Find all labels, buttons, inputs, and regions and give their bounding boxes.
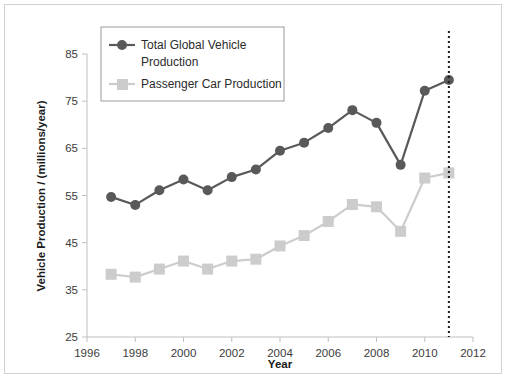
data-point-marker [202,264,213,275]
data-point-marker [203,185,213,195]
chart-frame: 25354555657585 1996199820002002200420062… [4,4,502,374]
data-point-marker [372,118,382,128]
data-point-marker [226,256,237,267]
data-point-marker [420,86,430,96]
data-point-marker [275,146,285,156]
chart-plot-area: 25354555657585 1996199820002002200420062… [5,5,501,373]
y-axis-title: Vehicle Production / (millions/year) [35,100,47,291]
data-point-marker [106,192,116,202]
data-point-marker [323,216,334,227]
legend-swatch-marker-dark [117,40,127,50]
x-tick-label: 2010 [412,347,438,359]
data-point-marker [178,256,189,267]
x-tick-label: 2000 [171,347,197,359]
data-point-marker [251,165,261,175]
y-tick-label: 55 [65,190,78,202]
legend-label-passenger-car-production: Passenger Car Production [141,77,282,91]
data-point-marker [227,172,237,182]
legend-swatch-marker-light [117,79,128,90]
data-point-marker [323,123,333,133]
data-point-marker [250,254,261,265]
y-tick-label: 45 [65,237,78,249]
legend-label-total-global-vehicle-production-line2: Production [141,55,198,69]
x-tick-label: 2006 [315,347,341,359]
y-tick-label: 35 [65,284,78,296]
x-tick-label: 2002 [219,347,245,359]
x-axis-ticks: 199619982000200220042006200820102012 [74,337,486,359]
x-tick-label: 2008 [364,347,390,359]
data-point-marker [299,230,310,241]
y-tick-label: 85 [65,48,78,60]
y-axis-ticks: 25354555657585 [65,48,87,343]
data-point-marker [395,226,406,237]
y-tick-label: 75 [65,95,78,107]
data-point-marker [396,160,406,170]
series-passenger-car-production [106,167,455,282]
chart-legend: Total Global Vehicle Production Passenge… [101,27,284,101]
data-point-marker [154,264,165,275]
data-point-marker [419,173,430,184]
x-tick-label: 1998 [122,347,148,359]
data-point-marker [130,272,141,283]
y-tick-label: 25 [65,331,78,343]
data-point-marker [371,201,382,212]
x-axis-title: Year [268,358,293,370]
data-point-marker [154,185,164,195]
data-point-marker [275,240,286,251]
data-point-marker [130,200,140,210]
legend-label-total-global-vehicle-production-line1: Total Global Vehicle [141,38,247,52]
data-point-marker [299,138,309,148]
data-point-marker [347,199,358,210]
x-tick-label: 2012 [460,347,486,359]
data-point-marker [179,174,189,184]
y-tick-label: 65 [65,142,78,154]
x-tick-label: 1996 [74,347,100,359]
data-point-marker [106,269,117,280]
data-point-marker [347,105,357,115]
